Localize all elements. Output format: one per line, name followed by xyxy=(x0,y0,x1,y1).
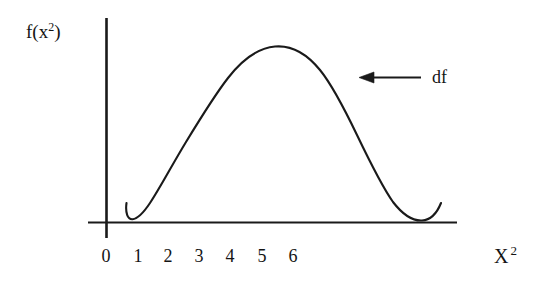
df-annotation-label: df xyxy=(432,68,447,86)
figure-canvas: f(x2) X2 df 0 1 2 3 4 5 6 xyxy=(0,0,556,289)
x-axis-label: X2 xyxy=(494,246,517,266)
x-tick-label-1: 1 xyxy=(130,246,146,267)
x-tick-label-4: 4 xyxy=(222,246,238,267)
plot-svg xyxy=(0,0,556,289)
x-axis-label-superscript: 2 xyxy=(510,243,517,258)
df-arrow-icon xyxy=(359,72,421,83)
x-tick-label-0: 0 xyxy=(98,246,114,267)
x-axis-label-base: X xyxy=(494,245,508,267)
density-curve xyxy=(126,46,441,220)
x-tick-label-2: 2 xyxy=(160,246,176,267)
y-axis-label-base: f(x xyxy=(26,21,48,42)
x-tick-label-3: 3 xyxy=(191,246,207,267)
y-axis-label: f(x2) xyxy=(26,22,60,41)
x-tick-label-6: 6 xyxy=(285,246,301,267)
y-axis-label-close: ) xyxy=(54,21,60,42)
x-tick-label-5: 5 xyxy=(254,246,270,267)
